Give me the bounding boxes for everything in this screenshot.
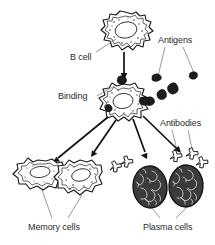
memory-cells-label: Memory cells xyxy=(28,222,80,232)
antigens-label: Antigens xyxy=(158,35,193,45)
bound-antigen-icon xyxy=(117,76,127,85)
antibodies-label: Antibodies xyxy=(160,118,202,128)
b-cell-label: B cell xyxy=(70,52,92,62)
bound-antigen-icon xyxy=(105,104,112,112)
binding-label: Binding xyxy=(58,91,87,101)
b-cell-activation-diagram: B cell Antigens xyxy=(0,0,215,245)
bound-antigen-icon xyxy=(139,97,150,105)
diagram-canvas: B cell Antigens xyxy=(0,0,215,245)
antigen-icon xyxy=(189,72,198,80)
plasma-cells-label: Plasma cells xyxy=(143,222,193,232)
antigen-icon xyxy=(157,89,167,99)
